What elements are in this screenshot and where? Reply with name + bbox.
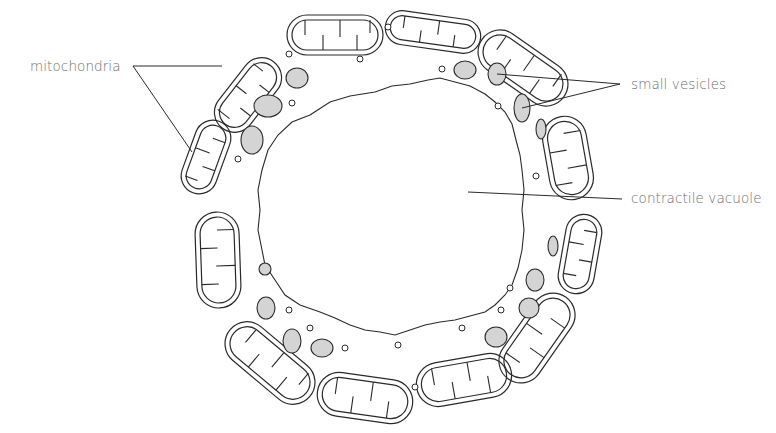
label-contractile-vacuole: contractile vacuole: [631, 190, 762, 206]
label-mitochondria: mitochondria: [30, 58, 121, 74]
contractile-vacuole-wall: [258, 78, 524, 335]
mitochondria-group: [176, 8, 605, 426]
label-small-vesicles: small vesicles: [631, 76, 726, 92]
